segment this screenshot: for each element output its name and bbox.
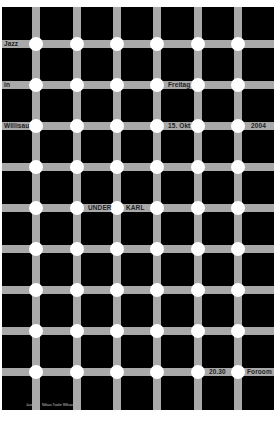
intersection-dot — [231, 119, 245, 133]
intersection-dot — [191, 201, 205, 215]
intersection-dot — [150, 324, 164, 338]
label-jazz: Jazz — [4, 40, 18, 48]
intersection-dot — [29, 160, 43, 174]
intersection-dot — [110, 242, 124, 256]
credit-right: Niklaus Troxler Willisau — [42, 403, 73, 407]
intersection-dot — [70, 78, 84, 92]
intersection-dot — [29, 119, 43, 133]
intersection-dot — [191, 160, 205, 174]
intersection-dot — [231, 324, 245, 338]
intersection-dot — [70, 160, 84, 174]
intersection-dot — [191, 283, 205, 297]
intersection-dot — [191, 365, 205, 379]
intersection-dot — [110, 78, 124, 92]
intersection-dot — [70, 201, 84, 215]
intersection-dot — [150, 37, 164, 51]
intersection-dot — [70, 324, 84, 338]
intersection-dot — [29, 78, 43, 92]
intersection-dot — [150, 160, 164, 174]
label-venue: Foroom — [247, 368, 272, 376]
intersection-dot — [29, 324, 43, 338]
label-under: UNDER — [88, 204, 112, 212]
intersection-dot — [150, 242, 164, 256]
intersection-dot — [110, 119, 124, 133]
intersection-dot — [70, 283, 84, 297]
intersection-dot — [70, 242, 84, 256]
intersection-dot — [110, 160, 124, 174]
intersection-dot — [29, 37, 43, 51]
intersection-dot — [231, 283, 245, 297]
label-willisau: Willisau — [4, 122, 29, 130]
label-in: in — [4, 81, 10, 89]
intersection-dot — [231, 242, 245, 256]
intersection-dot — [191, 119, 205, 133]
intersection-dot — [150, 201, 164, 215]
intersection-dot — [150, 119, 164, 133]
label-year: 2004 — [251, 122, 266, 130]
intersection-dot — [150, 78, 164, 92]
intersection-dot — [231, 37, 245, 51]
intersection-dot — [70, 37, 84, 51]
intersection-dot — [29, 365, 43, 379]
credit-left: Jazz — [26, 403, 32, 407]
intersection-dot — [110, 283, 124, 297]
label-time: 20.30 — [209, 368, 226, 376]
label-freitag: Freitag — [168, 81, 190, 89]
intersection-dot — [29, 242, 43, 256]
label-date: 15. Okt — [168, 122, 190, 130]
intersection-dot — [70, 119, 84, 133]
intersection-dot — [191, 78, 205, 92]
intersection-dot — [231, 160, 245, 174]
intersection-dot — [29, 283, 43, 297]
intersection-dot — [191, 242, 205, 256]
intersection-dot — [231, 201, 245, 215]
intersection-dot — [29, 201, 43, 215]
label-karl: KARL — [126, 204, 144, 212]
intersection-dot — [110, 324, 124, 338]
intersection-dot — [110, 37, 124, 51]
concert-poster: Jazz in Willisau Freitag 15. Okt 2004 UN… — [2, 7, 274, 410]
intersection-dot — [150, 365, 164, 379]
intersection-dot — [231, 365, 245, 379]
intersection-dot — [191, 37, 205, 51]
intersection-dot — [191, 324, 205, 338]
intersection-dot — [70, 365, 84, 379]
intersection-dot — [110, 201, 124, 215]
intersection-dot — [231, 78, 245, 92]
intersection-dot — [110, 365, 124, 379]
intersection-dot — [150, 283, 164, 297]
